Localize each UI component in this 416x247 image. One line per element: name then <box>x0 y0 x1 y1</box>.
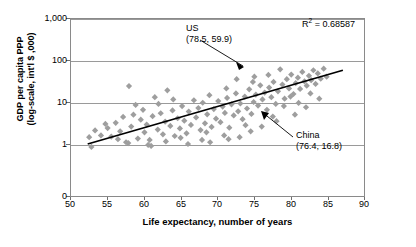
r-squared-value: = 0.68587 <box>312 19 355 29</box>
y-axis-title: GDP per capita PPP (log-scale, int'l $ ,… <box>15 0 37 159</box>
china-annotation-coords: (76.4, 16.8) <box>296 141 342 152</box>
ytick-label-10: 10 <box>57 97 67 107</box>
x-axis-title: Life expectancy, number of years <box>70 216 365 227</box>
ytick-label-100: 100 <box>52 55 67 65</box>
gridline-100 <box>71 61 364 62</box>
y-axis-title-line2: (log-scale, int'l $ ,000) <box>26 0 37 159</box>
xtick-label-90: 90 <box>349 199 379 210</box>
china-annotation-label: China <box>296 130 342 141</box>
xtick-label-55: 55 <box>92 199 122 210</box>
xtick-label-80: 80 <box>276 199 306 210</box>
ytick-label-1: 1 <box>62 139 67 149</box>
us-annotation-label: US <box>186 23 232 34</box>
r-squared-annotation: R2 = 0.68587 <box>302 19 355 30</box>
us-annotation-coords: (78.5, 59.9) <box>186 34 232 45</box>
us-annotation: US (78.5, 59.9) <box>186 23 232 45</box>
ytick-label-1000: 1,000 <box>44 13 67 23</box>
xtick-label-85: 85 <box>313 199 343 210</box>
y-axis-title-line1: GDP per capita PPP <box>15 0 26 159</box>
xtick-label-65: 65 <box>166 199 196 210</box>
xtick-label-75: 75 <box>239 199 269 210</box>
scatter-chart: 1,000 100 10 1 0 50 55 60 65 70 75 80 85… <box>0 0 416 247</box>
xtick-label-50: 50 <box>55 199 85 210</box>
gridline-10 <box>71 103 364 104</box>
china-annotation: China (76.4, 16.8) <box>296 130 342 152</box>
xtick-label-70: 70 <box>202 199 232 210</box>
xtick-label-60: 60 <box>129 199 159 210</box>
